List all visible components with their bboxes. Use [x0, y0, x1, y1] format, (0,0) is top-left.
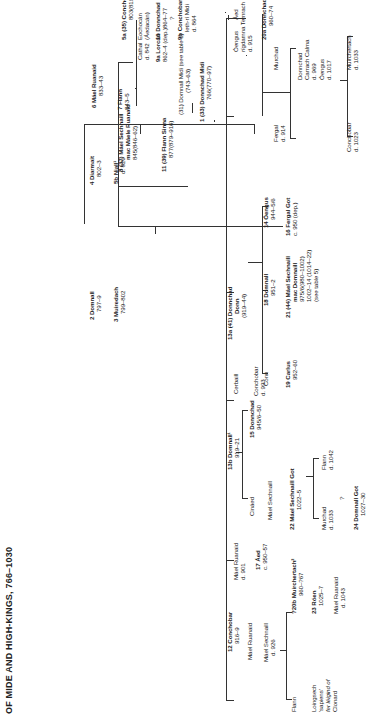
node-dates: 803(819–33)	[127, 0, 134, 40]
node-dates: c. 950 (dep.)	[291, 198, 298, 236]
node-muirchertach-20b: ?20b Muirchertach² 960–?67	[290, 559, 304, 614]
node-name: 15 Donnchad	[248, 400, 255, 438]
node-carlus-19: 19 Carlus 952–60	[284, 360, 298, 388]
node-aed-top: Áed	[232, 9, 239, 20]
node-flann-1042: Flann d. 1042	[320, 450, 334, 470]
node-dates: 944–5/6	[269, 197, 276, 228]
node-name: 20a Donnchad Finn	[260, 0, 267, 40]
node-mael-ruanaid-a: Máel Ruanaid	[246, 623, 253, 660]
node-dates: 1027–30	[359, 486, 366, 530]
node-dates: (743–63)	[184, 34, 191, 116]
node-name: 5a (35) Conchobar	[120, 0, 127, 40]
node-domnall-midi: (31) Domnall Midi (see table 1) (743–63)	[177, 34, 191, 116]
node-diarmait-4: 4 Diarmait 802–3	[88, 156, 102, 185]
node-dates: d. 1033	[327, 507, 334, 530]
node-flann-bottom: Flann	[290, 697, 297, 712]
node-dates: 951–2	[269, 274, 276, 306]
node-name: Máel Sechnaill	[262, 623, 269, 662]
node-line4: Clonard	[331, 680, 338, 712]
node-donnchad-finn-20a: 20a Donnchad Finn 960–74	[260, 0, 274, 40]
node-roen-23: 23 Róen 1025–7	[310, 586, 324, 614]
node-name: Cathal	[136, 43, 143, 60]
node-muiredach-3: 3 Muiredach 799–802	[112, 287, 126, 322]
node-domnall-13b: 13b Domnall¹ 919–21	[226, 432, 240, 470]
node-oengus-1017: Óengus d. 1017	[318, 59, 332, 80]
node-name: Óengus	[318, 59, 325, 80]
node-name: Fergal	[272, 125, 279, 142]
node-conchobar-9b: 9b Conchobar leth-rí Midi d. 864	[176, 0, 197, 40]
node-name: Conchobar	[345, 123, 352, 152]
node-aed-17: 17 Áed c. 950–57	[254, 544, 268, 570]
node-name: (31) Domnall Midi (see table 1)	[177, 34, 184, 116]
node-dates: 952–60	[291, 360, 298, 388]
node-name: 2 Domnall	[88, 291, 95, 320]
node-donnchad-carrach: Donnchad Carrach Calma d. 969	[296, 40, 317, 80]
node-name: 16 Fergal Got	[284, 198, 291, 236]
node-line4: 1002–14 (1014–22)	[305, 250, 312, 318]
node-dates: d. 926	[269, 623, 276, 662]
node-dates: 864–77	[161, 2, 168, 40]
node-name: Máel Ruanaid	[332, 577, 339, 614]
node-mael-ruanaid-901: Máel Ruanaid d. 901	[232, 543, 246, 580]
node-name: Flann	[290, 697, 297, 712]
node-eochocan: Eochocán (Áedacán)	[136, 12, 150, 40]
node-dates: 799–802	[119, 287, 126, 322]
node-conchobar-12: 12 Conchobar 916–9	[226, 612, 240, 652]
node-name: Cerbaill	[232, 374, 239, 394]
node-name: 11 (39) Flann Sinna	[160, 118, 167, 172]
node-dates: 945/6–50	[255, 400, 262, 438]
node-dates: d. 993	[259, 367, 266, 396]
node-dates: c. 950–57	[261, 544, 268, 570]
node-dates: d. 1023	[352, 123, 359, 152]
node-name: 4 Diarmait	[88, 156, 95, 185]
node-fergal-got-16: 16 Fergal Got c. 950 (dep.)	[284, 198, 298, 236]
node-dates: 1025–7	[317, 586, 324, 614]
node-name: Flann	[320, 450, 327, 470]
node-line2: leth-rí Midi	[183, 0, 190, 40]
node-name: 14 Óengus	[262, 197, 269, 228]
node-dates: d. 901	[239, 543, 246, 580]
node-dates: d. 1033	[352, 35, 359, 70]
node-note: ?	[168, 2, 175, 40]
node-line2: Donn	[233, 287, 240, 340]
node-name: 1 (33) Donnchad Midi	[198, 62, 205, 122]
node-oengus-14: 14 Óengus 944–5/6	[262, 197, 276, 228]
node-domnall-18: 18 Domnall 951–2	[262, 274, 276, 306]
node-name: Loingsech	[310, 680, 317, 712]
node-name: Murchad	[272, 47, 279, 70]
node-line2: rígdamna Temrach	[239, 2, 246, 52]
node-murchad-top: Murchad	[272, 47, 279, 70]
node-dates: (919–44)	[240, 287, 247, 340]
node-dates: d. 1042	[327, 450, 334, 470]
node-mael-ruanaid-1043: Máel Ruanaid d. 1043	[332, 577, 346, 614]
node-name: Máel Ruanaid	[232, 543, 239, 580]
node-mael-ruanaid-6: 6 Máel Ruanaid 833–43	[90, 64, 104, 108]
node-muirchertach-1033: Muirchertach d. 1033	[345, 35, 359, 70]
node-mael-sechnaill-8: 8 (37) Máel Sechnaill mac Máele Ruanaid …	[117, 104, 138, 172]
node-line2: Carrach Calma	[303, 40, 310, 80]
node-dates: 916–9	[233, 612, 240, 652]
node-conchobar-1023: Conchobar d. 1023	[345, 123, 359, 152]
node-cerbaill: Cerbaill	[232, 374, 239, 394]
node-dates: 797–9	[95, 291, 102, 320]
node-name: ?	[338, 497, 345, 500]
node-dates: 802–3	[95, 156, 102, 185]
node-dates: d. 969	[310, 40, 317, 80]
node-dates: 833–43	[97, 64, 104, 108]
node-name: Murchad	[320, 507, 327, 530]
node-q-mark: ?	[338, 497, 345, 500]
node-name: 6 Máel Ruanaid	[90, 64, 97, 108]
node-donnchad-15: 15 Donnchad 945/6–50	[248, 400, 262, 438]
node-dates: 877(879–916)	[167, 118, 174, 172]
node-conchobar-993: Conchobar d. 993	[252, 367, 266, 396]
node-donnchad-10: 10 Donnchad 864–77 ?	[154, 2, 175, 40]
node-dates: d. 1043	[339, 577, 346, 614]
node-name: ?20b Muirchertach²	[290, 559, 297, 614]
node-line3: 975/6(980–1002)	[298, 250, 305, 318]
node-loingsech: Loingsech 'sapiens' fer léigind of Clona…	[310, 680, 338, 712]
node-murchad-1033: Murchad d. 1033	[320, 507, 334, 530]
node-name: 12 Conchobar	[226, 612, 233, 652]
node-flann-sinna-11: 11 (39) Flann Sinna 877(879–916)	[160, 118, 174, 172]
node-dates: d. 915	[246, 2, 253, 52]
node-line2: mac Domnaill	[291, 250, 298, 318]
